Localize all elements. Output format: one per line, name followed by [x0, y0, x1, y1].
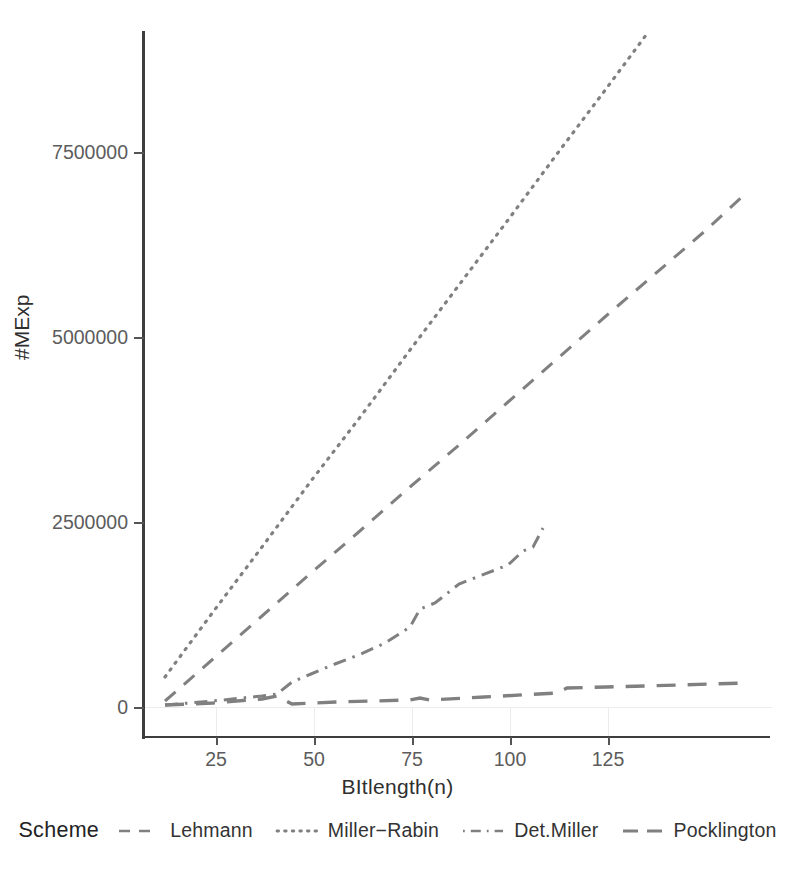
series-line-pocklington [165, 683, 744, 705]
x-axis-title: BItlength(n) [0, 775, 795, 799]
y-axis-tick [134, 522, 144, 524]
x-tick-label-50: 50 [274, 748, 354, 771]
legend-title: Scheme [18, 818, 99, 843]
legend-label-det-miller: Det.Miller [514, 819, 598, 842]
chart-legend: Scheme Lehmann Miller−Rabin [0, 818, 795, 843]
gridline-horizontal [145, 707, 772, 708]
y-axis-tick [134, 152, 144, 154]
legend-item-pocklington[interactable]: Pocklington [621, 819, 777, 842]
x-tick-label-25: 25 [176, 748, 256, 771]
x-axis-line [142, 736, 770, 738]
legend-item-det-miller[interactable]: Det.Miller [461, 819, 598, 842]
x-axis-tick [608, 737, 610, 745]
x-tick-label-100: 100 [470, 748, 550, 771]
series-line-lehmann [165, 195, 744, 701]
x-axis-tick [216, 737, 218, 745]
series-line-det-miller [165, 528, 543, 705]
y-axis-title: #MExp [10, 295, 34, 360]
legend-key-dashed-icon [117, 823, 161, 839]
legend-item-miller-rabin[interactable]: Miller−Rabin [275, 819, 439, 842]
x-tick-label-75: 75 [372, 748, 452, 771]
legend-label-lehmann: Lehmann [170, 819, 253, 842]
legend-label-pocklington: Pocklington [674, 819, 777, 842]
y-tick-label-0: 0 [8, 696, 128, 719]
y-axis-tick [134, 707, 144, 709]
x-tick-label-125: 125 [568, 748, 648, 771]
x-axis-tick [510, 737, 512, 745]
x-axis-tick [412, 737, 414, 745]
plot-area [143, 33, 772, 707]
series-line-miller-rabin [165, 33, 744, 677]
y-axis-tick [134, 337, 144, 339]
y-tick-label-2500000: 2500000 [8, 511, 128, 534]
legend-item-lehmann[interactable]: Lehmann [117, 819, 253, 842]
y-tick-label-7500000: 7500000 [8, 141, 128, 164]
x-axis-tick [314, 737, 316, 745]
legend-key-dotted-icon [275, 823, 319, 839]
y-axis-line [142, 31, 145, 739]
legend-label-miller-rabin: Miller−Rabin [328, 819, 439, 842]
legend-key-longdash-icon [621, 823, 665, 839]
legend-key-dashdot-icon [461, 823, 505, 839]
chart-container: 7500000 5000000 2500000 0 25 50 75 100 1… [0, 0, 795, 882]
